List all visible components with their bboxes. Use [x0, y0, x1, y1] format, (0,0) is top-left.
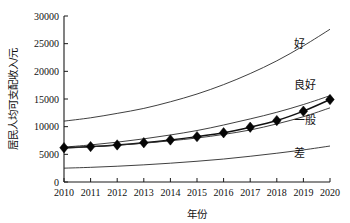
x-ticklabel: 2014	[160, 187, 180, 198]
x-axis-ticklabels: 2010201120122013201420152016201720182019…	[54, 187, 340, 198]
y-ticklabel: 0	[54, 177, 59, 188]
data-point-marker	[326, 94, 335, 104]
data-point-marker	[60, 142, 69, 152]
y-ticklabel: 30000	[34, 11, 59, 22]
x-ticklabel: 2013	[134, 187, 154, 198]
plot-series-group	[64, 29, 330, 168]
x-ticklabel: 2016	[214, 187, 234, 198]
envelope-curve	[64, 29, 330, 121]
x-ticklabel: 2019	[293, 187, 313, 198]
x-ticklabel: 2018	[267, 187, 287, 198]
data-point-marker	[219, 128, 228, 138]
x-ticklabel: 2020	[320, 187, 340, 198]
y-ticklabel: 10000	[34, 121, 59, 132]
data-point-marker	[86, 141, 95, 151]
y-axis-tickmarks	[64, 16, 68, 182]
x-axis-group: 2010201120122013201420152016201720182019…	[54, 178, 340, 220]
chart-container: 050001000015000200002500030000 居民人均可支配收入…	[0, 0, 350, 223]
y-ticklabel: 25000	[34, 38, 59, 49]
y-axis-title: 居民人均可支配收入/元	[7, 47, 19, 151]
curve-label: 良好	[294, 78, 316, 91]
curve-annotations-group: 好良好一般差	[294, 37, 316, 158]
data-point-marker	[193, 131, 202, 141]
x-ticklabel: 2017	[240, 187, 260, 198]
data-point-marker	[113, 140, 122, 150]
envelope-curve	[64, 146, 330, 168]
chart-svg: 050001000015000200002500030000 居民人均可支配收入…	[0, 0, 350, 223]
x-axis-tickmarks	[64, 178, 330, 182]
y-ticklabel: 15000	[34, 94, 59, 105]
curve-label: 差	[294, 146, 305, 159]
curve-label: 一般	[294, 114, 316, 126]
x-axis-title: 年份	[187, 208, 208, 220]
x-ticklabel: 2010	[54, 187, 74, 198]
x-ticklabel: 2015	[187, 187, 207, 198]
y-ticklabel: 20000	[34, 66, 59, 77]
curve-label: 好	[294, 37, 305, 50]
x-ticklabel: 2012	[107, 187, 127, 198]
y-axis-ticklabels: 050001000015000200002500030000	[34, 11, 59, 188]
y-ticklabel: 5000	[39, 149, 59, 160]
x-ticklabel: 2011	[81, 187, 101, 198]
y-axis-group: 050001000015000200002500030000 居民人均可支配收入…	[7, 11, 68, 188]
data-point-marker	[166, 135, 175, 145]
